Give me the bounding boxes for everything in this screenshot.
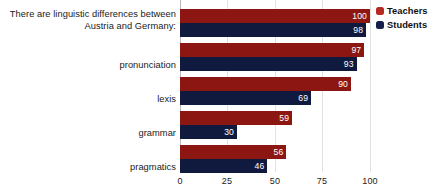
- bar-teachers-grammar: 59: [180, 111, 292, 125]
- bar-value-teachers-grammar: 59: [279, 114, 289, 123]
- tick-label-75: 75: [317, 176, 327, 186]
- bar-value-students-pronunciation: 93: [344, 60, 354, 69]
- tick-label-25: 25: [222, 176, 232, 186]
- legend-label-students: Students: [387, 20, 427, 30]
- bar-students-pragmatics: 46: [180, 159, 267, 173]
- bar-teachers-question: 100: [180, 9, 370, 23]
- bar-value-students-question: 98: [353, 26, 363, 35]
- bar-value-students-pragmatics: 46: [255, 162, 265, 171]
- bar-value-teachers-lexis: 90: [338, 80, 348, 89]
- legend: Teachers Students: [376, 5, 428, 33]
- bar-value-students-grammar: 30: [224, 128, 234, 137]
- legend-swatch-students-icon: [376, 21, 384, 29]
- bar-value-students-lexis: 69: [298, 94, 308, 103]
- category-label-grammar: grammar: [16, 128, 176, 138]
- bar-teachers-pragmatics: 56: [180, 145, 286, 159]
- bar-students-question: 98: [180, 23, 366, 37]
- category-label-pragmatics: pragmatics: [16, 162, 176, 172]
- gridline-100: [370, 0, 371, 172]
- bar-students-pronunciation: 93: [180, 57, 357, 71]
- legend-label-teachers: Teachers: [387, 6, 428, 16]
- bar-students-lexis: 69: [180, 91, 311, 105]
- bar-value-teachers-pronunciation: 97: [351, 46, 361, 55]
- question-line-1: There are linguistic differences between: [2, 8, 176, 20]
- question-line-2: Austria and Germany:: [2, 20, 176, 32]
- legend-item-teachers: Teachers: [376, 5, 428, 17]
- bar-value-teachers-pragmatics: 56: [274, 148, 284, 157]
- legend-swatch-teachers-icon: [376, 7, 384, 15]
- tick-label-0: 0: [177, 176, 182, 186]
- bar-teachers-pronunciation: 97: [180, 43, 364, 57]
- legend-item-students: Students: [376, 19, 428, 31]
- chart-question-label: There are linguistic differences between…: [2, 8, 176, 33]
- tick-label-50: 50: [270, 176, 280, 186]
- category-label-pronunciation: pronunciation: [16, 60, 176, 70]
- bar-teachers-lexis: 90: [180, 77, 351, 91]
- category-label-lexis: lexis: [16, 94, 176, 104]
- plot-area: 100 98 97 93 90 69 59 30 56 46: [180, 0, 370, 172]
- bar-value-teachers-question: 100: [352, 12, 367, 21]
- bar-students-grammar: 30: [180, 125, 237, 139]
- tick-label-100: 100: [362, 176, 378, 186]
- bar-chart: There are linguistic differences between…: [0, 0, 437, 193]
